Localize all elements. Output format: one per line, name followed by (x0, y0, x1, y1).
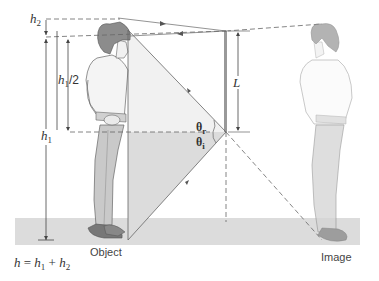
floor (15, 218, 360, 245)
eye-ray-top (118, 18, 226, 31)
label-theta-r: θr (196, 121, 206, 136)
object-person (86, 22, 130, 238)
label-h1: h1 (41, 129, 52, 145)
label-object: Object (90, 247, 122, 258)
mirror (224, 31, 227, 132)
label-h1-half: h1/2 (58, 73, 79, 89)
formula-height: h = h1 + h2 (14, 256, 70, 272)
label-image: Image (321, 252, 352, 263)
label-h2: h2 (30, 12, 41, 28)
arrow-lower-ray (185, 180, 189, 185)
label-L: L (233, 76, 240, 89)
label-theta-i: θi (196, 136, 205, 151)
image-person (300, 24, 352, 242)
mirror-diagram (0, 0, 379, 281)
